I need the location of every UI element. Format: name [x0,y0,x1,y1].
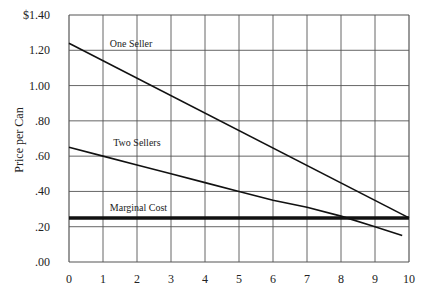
x-tick-label: 9 [372,272,378,286]
series-label: One Seller [110,38,153,49]
x-tick-label: 7 [304,272,310,286]
y-tick-label: 1.00 [29,79,50,93]
series-labels: One SellerTwo SellersMarginal Cost [110,38,168,213]
x-tick-label: 1 [100,272,106,286]
x-tick-label: 6 [270,272,276,286]
y-axis-label: Price per Can [12,107,26,172]
x-tick-label: 3 [168,272,174,286]
y-tick-label: .40 [35,184,50,198]
x-tick-label: 5 [236,272,242,286]
chart: One SellerTwo SellersMarginal Cost 01234… [0,0,425,303]
y-tick-label: $1.40 [23,8,50,22]
x-tick-label: 2 [134,272,140,286]
x-tick-label: 8 [338,272,344,286]
x-tick-label: 10 [403,272,415,286]
series-label: Marginal Cost [110,202,168,213]
y-tick-label: .80 [35,114,50,128]
series-label: Two Sellers [113,137,160,148]
y-tick-label: .60 [35,149,50,163]
y-tick-label: 1.20 [29,43,50,57]
y-tick-label: .20 [35,220,50,234]
y-tick-label: .00 [35,255,50,269]
x-tick-label: 0 [66,272,72,286]
x-tick-label: 4 [202,272,208,286]
